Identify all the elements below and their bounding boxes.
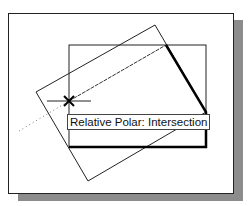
reference-rectangle: [69, 45, 206, 147]
drawing-canvas[interactable]: [0, 0, 251, 206]
polar-tracking-line-solid: [69, 45, 166, 101]
snap-tooltip: Relative Polar: Intersection: [67, 114, 210, 130]
bold-polyline: [69, 45, 206, 147]
rotated-rectangle: [36, 25, 206, 181]
